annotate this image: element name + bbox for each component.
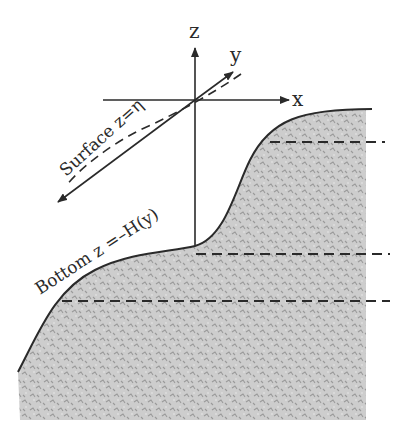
y-axis-label: y xyxy=(229,43,242,67)
z-axis-label: z xyxy=(189,19,200,43)
y-axis xyxy=(195,72,233,100)
surface-label: Surface z=η xyxy=(55,94,147,179)
coastal-bathymetry-diagram: z y x Surface z=η Bottom z =–H(y) xyxy=(0,0,410,441)
x-axis-label: x xyxy=(292,87,304,111)
